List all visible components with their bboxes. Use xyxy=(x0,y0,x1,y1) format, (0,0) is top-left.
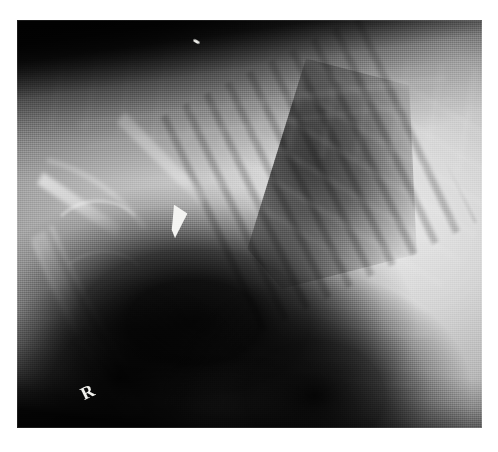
radiograph-film: R xyxy=(17,20,482,428)
radiograph-viewer: R xyxy=(0,0,498,452)
film-edge-border xyxy=(17,20,482,428)
